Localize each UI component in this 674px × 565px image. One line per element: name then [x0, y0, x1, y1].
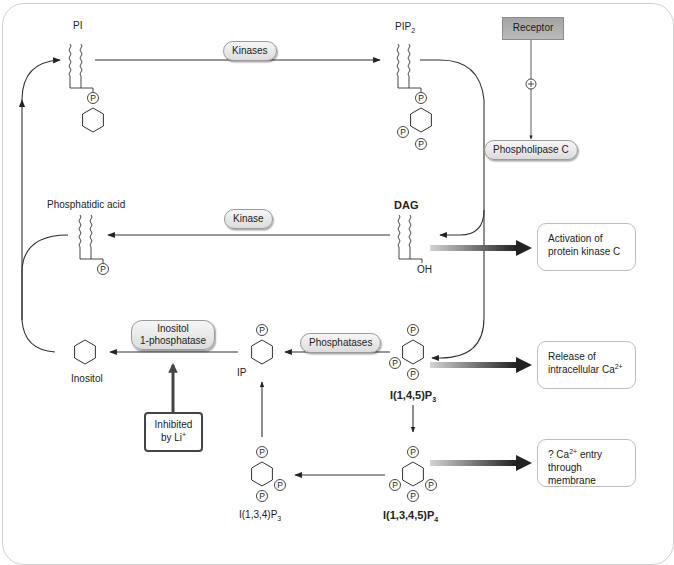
- label-ip3-134: I(1,3,4)P3: [239, 509, 281, 521]
- enzyme-kinases: Kinases: [223, 41, 277, 61]
- label-ip3-145-sub: 3: [432, 396, 436, 403]
- label-pip2-text: PIP: [395, 21, 411, 32]
- effect-pkc-line1: Activation of: [548, 232, 625, 245]
- label-pip2-sub: 2: [411, 27, 415, 34]
- enzyme-kinase: Kinase: [224, 209, 273, 229]
- lithium-inhibition-box: Inhibited by Li+: [144, 412, 203, 452]
- phosphate-icon: [98, 264, 109, 275]
- enzyme-inositol-1-phosphatase-line2: 1-phosphatase: [140, 335, 206, 347]
- label-pip2: PIP2: [395, 21, 415, 33]
- effect-ca-entry-suffix: entry: [577, 449, 602, 460]
- pi-structure: [69, 44, 103, 132]
- ip-structure: [252, 325, 273, 365]
- enzyme-phosphatases: Phosphatases: [300, 333, 381, 353]
- effect-ca-entry-line2: through membrane: [548, 461, 625, 487]
- label-inositol: Inositol: [71, 373, 103, 385]
- effect-calcium-entry: ? Ca2+ entry through membrane: [537, 439, 636, 487]
- label-ip: IP: [237, 367, 246, 379]
- label-ip4-sub: 4: [434, 516, 438, 523]
- phosphatidic-acid-structure: [79, 215, 103, 263]
- effect-pkc-line2: protein kinase C: [548, 245, 625, 258]
- dag-structure: [398, 215, 422, 263]
- ip3-145-structure: [390, 325, 424, 380]
- effect-ca-entry-sup: 2+: [569, 448, 577, 455]
- label-ip3-145: I(1,4,5)P3: [390, 389, 436, 401]
- cycle-arrows: [22, 40, 531, 475]
- effect-ca-release-line1: Release of: [548, 350, 625, 363]
- label-phosphatidic-acid: Phosphatidic acid: [47, 199, 125, 211]
- inositol-ring-icon: [75, 340, 96, 364]
- label-ip3-145-text: I(1,4,5)P: [390, 389, 432, 401]
- label-ip3-134-text: I(1,3,4)P: [239, 509, 277, 520]
- effect-ca-entry-prefix: ? Ca: [548, 449, 569, 460]
- enzyme-phospholipase-c: Phospholipase C: [484, 140, 578, 160]
- label-pi: PI: [73, 20, 82, 32]
- effect-arrows: [430, 240, 532, 471]
- enzyme-inositol-1-phosphatase-line1: Inositol: [140, 323, 206, 335]
- stimulation-plus-icon: [526, 79, 536, 89]
- inhibition-line1: Inhibited: [146, 418, 201, 431]
- ip3-134-structure: [252, 447, 286, 502]
- enzyme-inositol-1-phosphatase: Inositol 1-phosphatase: [131, 320, 215, 350]
- label-ip4: I(1,3,4,5)P4: [383, 509, 438, 521]
- inhibition-sup: +: [182, 431, 186, 438]
- effect-activation-pkc: Activation of protein kinase C: [537, 223, 636, 271]
- label-ip4-text: I(1,3,4,5)P: [383, 509, 434, 521]
- label-ip3-134-sub: 3: [277, 515, 281, 522]
- effect-calcium-release: Release of intracellular Ca2+: [537, 341, 636, 389]
- label-oh: OH: [417, 264, 432, 276]
- effect-ca-release-sup: 2+: [615, 363, 623, 370]
- receptor-box: Receptor: [502, 17, 564, 40]
- label-dag: DAG: [394, 199, 418, 211]
- inhibition-line2: by Li: [161, 432, 182, 443]
- effect-ca-release-line2: intracellular Ca: [548, 364, 615, 375]
- ip4-structure: [390, 447, 437, 502]
